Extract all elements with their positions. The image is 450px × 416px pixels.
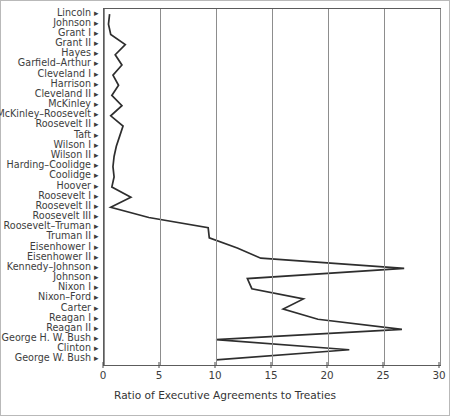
y-axis-tick-arrow-icon: ▸ [94,343,99,353]
y-axis-label: Coolidge [0,170,91,180]
y-axis-tick-arrow-icon: ▸ [94,282,99,292]
x-tick-mark [439,362,440,368]
y-axis-tick-arrow-icon: ▸ [94,262,99,272]
y-axis-tick-arrow-icon: ▸ [94,211,99,221]
y-axis-tick-arrow-icon: ▸ [94,353,99,363]
y-axis-tick-arrow-icon: ▸ [94,323,99,333]
gridline-15 [272,9,273,365]
x-tick-label: 30 [432,369,445,381]
y-axis-label: George W. Bush [0,353,91,363]
x-tick-label: 10 [208,369,221,381]
x-tick-mark [215,362,216,368]
y-axis-tick-arrow-icon: ▸ [94,292,99,302]
gridline-5 [160,9,161,365]
gridline-25 [384,9,385,365]
y-axis-tick-arrow-icon: ▸ [94,69,99,79]
y-axis-tick-arrow-icon: ▸ [94,242,99,252]
y-axis-tick-arrow-icon: ▸ [94,160,99,170]
x-tick-label: 5 [156,369,163,381]
y-axis-tick-arrow-icon: ▸ [94,313,99,323]
y-axis-tick-arrow-icon: ▸ [94,221,99,231]
gridline-20 [328,9,329,365]
y-axis-tick-arrow-icon: ▸ [94,201,99,211]
y-axis-tick-arrow-icon: ▸ [94,303,99,313]
y-axis-tick-arrow-icon: ▸ [94,79,99,89]
y-axis-tick-arrow-icon: ▸ [94,109,99,119]
x-tick-mark [159,362,160,368]
y-axis-label: Nixon–Ford [0,292,91,302]
y-axis-tick-arrow-icon: ▸ [94,130,99,140]
y-axis-tick-arrow-icon: ▸ [94,231,99,241]
x-tick-label: 20 [320,369,333,381]
x-axis-title: Ratio of Executive Agreements to Treatie… [1,389,449,401]
x-axis-tick-labels: 051015202530 [103,369,441,385]
chart-figure: Lincoln▸Johnson▸Grant I▸Grant II▸Hayes▸G… [0,0,450,416]
x-tick-label: 0 [100,369,107,381]
data-polyline [108,14,404,360]
y-axis-tick-arrow-icon: ▸ [94,48,99,58]
gridline-0 [104,9,105,365]
x-tick-label: 15 [264,369,277,381]
y-axis-tick-arrow-icon: ▸ [94,18,99,28]
y-axis-tick-arrow-icon: ▸ [94,119,99,129]
y-axis-label: Truman II [0,231,91,241]
y-axis-tick-arrow-icon: ▸ [94,272,99,282]
x-tick-mark [271,362,272,368]
gridline-30 [440,9,441,365]
y-axis-label: Roosevelt II [0,119,91,129]
y-axis-tick-arrow-icon: ▸ [94,58,99,68]
plot-area [103,8,441,366]
x-tick-label: 25 [376,369,389,381]
gridline-10 [216,9,217,365]
y-axis-tick-arrow-icon: ▸ [94,150,99,160]
y-axis-tick-arrow-icon: ▸ [94,89,99,99]
y-axis-tick-arrow-icon: ▸ [94,140,99,150]
y-axis-tick-arrow-icon: ▸ [94,191,99,201]
y-axis-tick-arrow-icon: ▸ [94,8,99,18]
y-axis-tick-arrow-icon: ▸ [94,170,99,180]
x-tick-mark [327,362,328,368]
y-axis-tick-arrow-icon: ▸ [94,99,99,109]
y-axis-tick-arrow-icon: ▸ [94,181,99,191]
x-tick-mark [383,362,384,368]
y-axis-tick-arrow-icon: ▸ [94,38,99,48]
y-axis-label: Hoover [0,181,91,191]
y-axis-tick-arrow-icon: ▸ [94,252,99,262]
y-axis-tick-arrow-icon: ▸ [94,333,99,343]
x-tick-mark [103,362,104,368]
y-axis-label: Garfield–Arthur [0,58,91,68]
y-axis-tick-arrow-icon: ▸ [94,28,99,38]
